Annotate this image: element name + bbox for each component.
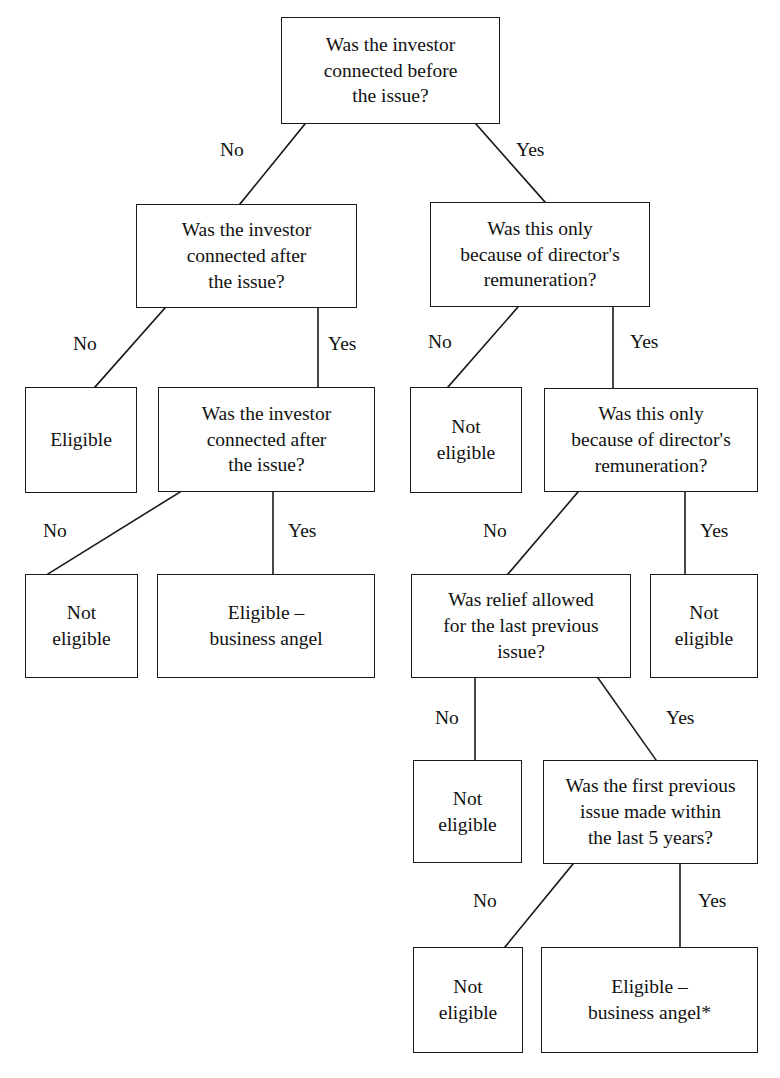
edge-label-yes-l14: Yes xyxy=(698,891,726,911)
decision-node-q_directors_remuneration_2[interactable]: Was this only because of director's remu… xyxy=(544,388,758,492)
outcome-node-r_not_eligible_3[interactable]: Not eligible xyxy=(650,574,758,678)
connector-q_directors_remuneration_1-to-r_not_eligible_1 xyxy=(448,307,518,387)
edge-label-yes-l12: Yes xyxy=(666,708,694,728)
edge-label-no-l7: No xyxy=(43,521,67,541)
outcome-node-r_not_eligible_4[interactable]: Not eligible xyxy=(413,760,522,863)
outcome-node-r_not_eligible_1[interactable]: Not eligible xyxy=(410,387,522,493)
connector-q_connected_before-to-q_connected_after_left xyxy=(240,124,305,204)
decision-node-q_connected_after_left[interactable]: Was the investor connected after the iss… xyxy=(136,204,357,308)
outcome-node-r_eligible_angel_1[interactable]: Eligible – business angel xyxy=(157,574,375,678)
connector-q_relief_allowed-to-q_first_previous_5_years xyxy=(598,678,656,760)
edge-label-yes-l4: Yes xyxy=(328,334,356,354)
edge-label-yes-l6: Yes xyxy=(630,332,658,352)
decision-node-q_connected_before[interactable]: Was the investor connected before the is… xyxy=(281,17,500,124)
decision-node-q_relief_allowed[interactable]: Was relief allowed for the last previous… xyxy=(411,574,631,678)
outcome-node-r_eligible_1[interactable]: Eligible xyxy=(25,387,137,493)
decision-node-q_connected_after_2[interactable]: Was the investor connected after the iss… xyxy=(158,387,375,492)
outcome-node-r_eligible_angel_2[interactable]: Eligible – business angel* xyxy=(541,947,758,1053)
edge-label-yes-l8: Yes xyxy=(288,521,316,541)
edge-label-no-l11: No xyxy=(435,708,459,728)
edge-label-no-l9: No xyxy=(483,521,507,541)
outcome-node-r_not_eligible_5[interactable]: Not eligible xyxy=(413,947,523,1053)
flowchart-canvas: Was the investor connected before the is… xyxy=(0,0,780,1078)
connector-lines xyxy=(0,0,780,1078)
connector-q_connected_before-to-q_directors_remuneration_1 xyxy=(476,124,545,202)
decision-node-q_first_previous_5_years[interactable]: Was the first previous issue made within… xyxy=(543,760,758,864)
connector-q_connected_after_left-to-r_eligible_1 xyxy=(95,308,165,387)
edge-label-no-l3: No xyxy=(73,334,97,354)
decision-node-q_directors_remuneration_1[interactable]: Was this only because of director's remu… xyxy=(430,202,650,307)
connector-q_connected_after_2-to-r_not_eligible_2 xyxy=(48,492,180,574)
edge-label-no-l5: No xyxy=(428,332,452,352)
connector-q_directors_remuneration_2-to-q_relief_allowed xyxy=(508,492,578,574)
edge-label-no-l1: No xyxy=(220,140,244,160)
edge-label-yes-l10: Yes xyxy=(700,521,728,541)
edge-label-no-l13: No xyxy=(473,891,497,911)
edge-label-yes-l2: Yes xyxy=(516,140,544,160)
outcome-node-r_not_eligible_2[interactable]: Not eligible xyxy=(25,574,138,678)
connector-q_first_previous_5_years-to-r_not_eligible_5 xyxy=(505,864,573,947)
